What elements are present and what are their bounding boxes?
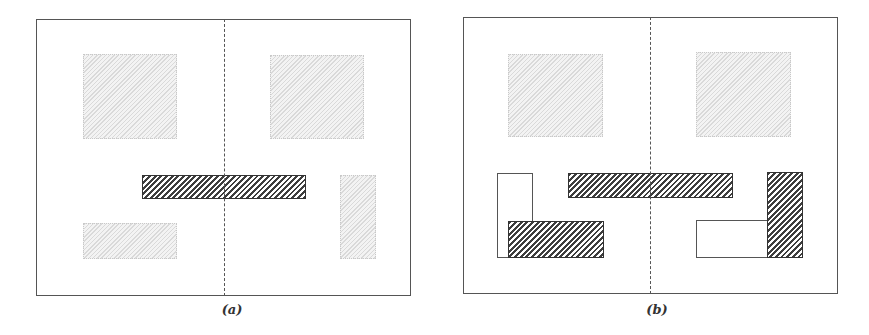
panel-b-light-block-top-right [696,52,791,137]
caption-a: (a) [222,302,243,317]
panel-a-symmetry-axis [224,19,225,296]
caption-b: (b) [646,302,667,317]
panel-a-light-block-bottom-left [83,223,177,259]
panel-a-light-block-right-vertical [340,175,376,259]
panel-b-outline-block-right-horizontal [696,220,768,258]
panel-b-dark-block-right-vertical [767,172,803,258]
panel-b-dark-block-bottom-left [508,221,604,258]
panel-b-symmetry-axis [650,17,651,294]
panel-b-light-block-top-left [508,54,603,137]
panel-a-light-block-top-left [83,54,177,139]
panel-a-light-block-top-right [270,55,364,139]
